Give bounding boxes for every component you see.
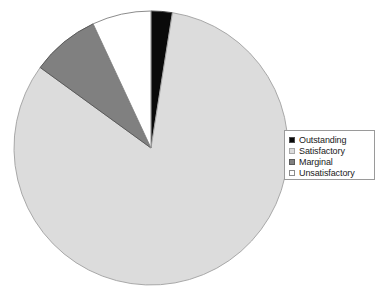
legend-swatch-satisfactory (289, 148, 295, 154)
legend-label-outstanding: Outstanding (299, 135, 346, 145)
legend-item-outstanding[interactable]: Outstanding (289, 134, 370, 145)
legend-swatch-outstanding (289, 137, 295, 143)
legend-swatch-marginal (289, 159, 295, 165)
legend-swatch-unsatisfactory (289, 170, 295, 176)
chart-legend: Outstanding Satisfactory Marginal Unsati… (284, 130, 375, 180)
pie-chart-figure: Outstanding Satisfactory Marginal Unsati… (0, 0, 381, 298)
legend-label-satisfactory: Satisfactory (299, 146, 345, 156)
legend-label-marginal: Marginal (299, 157, 333, 167)
legend-item-unsatisfactory[interactable]: Unsatisfactory (289, 167, 370, 178)
legend-label-unsatisfactory: Unsatisfactory (299, 168, 355, 178)
legend-item-marginal[interactable]: Marginal (289, 156, 370, 167)
pie-slice-group (14, 11, 288, 285)
legend-item-satisfactory[interactable]: Satisfactory (289, 145, 370, 156)
